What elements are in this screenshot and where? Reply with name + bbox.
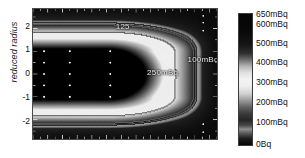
- colorbar-label-200: 200mBq: [256, 98, 288, 107]
- colorbar-label-600: 600mBq: [256, 20, 288, 29]
- contour-label-100mbq: 100mBq: [188, 55, 218, 64]
- colorbar-label-0: 0Bq: [256, 140, 271, 149]
- y-tick-label-neg2: -2: [14, 117, 30, 125]
- y-tick-label-1: 1: [14, 45, 30, 53]
- colorbar: [238, 13, 253, 146]
- contour-label-250mbq: 250mBq: [147, 68, 178, 77]
- colorbar-label-300: 300mBq: [256, 78, 288, 87]
- contour-label-125: 125: [116, 22, 130, 31]
- contour-plot-area[interactable]: 125 250mBq 100mBq: [32, 8, 218, 140]
- y-tick-label-neg1: -1: [14, 93, 30, 101]
- colorbar-label-400: 400mBq: [256, 58, 288, 67]
- y-tick-label-0: 0: [14, 69, 30, 77]
- figure-root: reduced radius 2 1 0 -1 -2 125 250mBq 10…: [0, 0, 305, 158]
- colorbar-label-500: 500mBq: [256, 39, 288, 48]
- colorbar-tick-labels: 650mBq 600mBq 500mBq 400mBq 300mBq 200mB…: [256, 0, 305, 158]
- colorbar-label-650: 650mBq: [256, 10, 288, 19]
- y-axis-tick-labels: 2 1 0 -1 -2: [8, 0, 30, 158]
- y-tick-label-2: 2: [14, 22, 30, 30]
- colorbar-label-100: 100mBq: [256, 118, 288, 127]
